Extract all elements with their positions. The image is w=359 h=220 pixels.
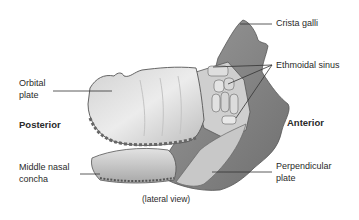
- figure-caption: (lateral view): [142, 194, 190, 205]
- label-orbital-plate-line2: plate: [19, 90, 39, 101]
- ethmoid-bone-figure: Crista galli Ethmoidal sinus Orbital pla…: [0, 0, 359, 220]
- label-posterior: Posterior: [19, 119, 61, 130]
- label-perpendicular-plate-line1: Perpendicular: [276, 161, 332, 172]
- label-anterior: Anterior: [287, 117, 324, 128]
- label-middle-nasal-concha-line2: concha: [19, 174, 48, 185]
- label-middle-nasal-concha-line1: Middle nasal: [19, 162, 70, 173]
- ethmoid-bone-illustration: [0, 0, 359, 220]
- orbital-plate-shape: [88, 67, 204, 145]
- label-crista-galli: Crista galli: [276, 18, 318, 29]
- label-perpendicular-plate-line2: plate: [276, 173, 296, 184]
- label-ethmoidal-sinus: Ethmoidal sinus: [276, 60, 340, 71]
- label-orbital-plate-line1: Orbital: [19, 78, 46, 89]
